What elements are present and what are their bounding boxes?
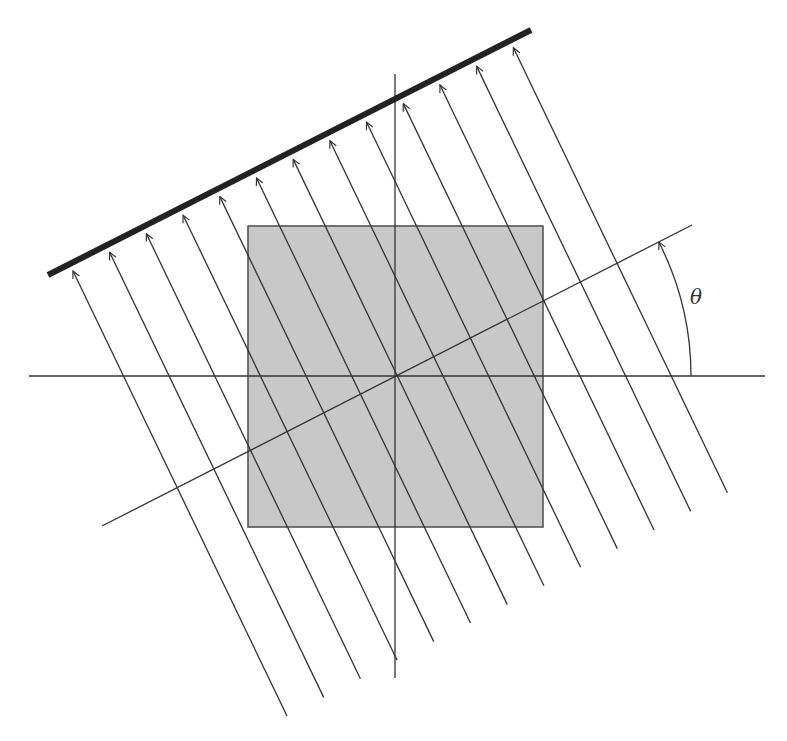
- projection-rays: [73, 48, 727, 716]
- ray-arrow: [513, 48, 727, 493]
- theta-arc: [659, 242, 691, 376]
- angle-arc: [659, 242, 691, 376]
- projection-diagram: [0, 0, 787, 741]
- theta-label: θ: [690, 285, 702, 309]
